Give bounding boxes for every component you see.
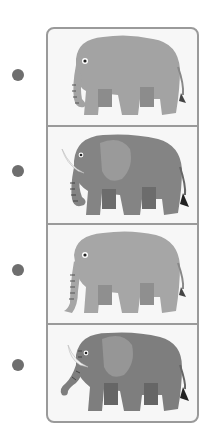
- elephant-image-2: [48, 127, 197, 223]
- panel-2[interactable]: [48, 127, 197, 223]
- elephant-icon: [62, 135, 189, 216]
- picture-frame: [46, 27, 199, 423]
- elephant-icon: [72, 35, 186, 115]
- elephant-icon: [64, 231, 186, 313]
- panel-3[interactable]: [48, 225, 197, 323]
- choice-dot-3[interactable]: [12, 264, 24, 276]
- panel-1[interactable]: [48, 29, 197, 125]
- elephant-image-1: [48, 29, 197, 125]
- elephant-icon: [61, 333, 189, 412]
- choice-dot-4[interactable]: [12, 359, 24, 371]
- elephant-image-3: [48, 225, 197, 323]
- choice-dot-2[interactable]: [12, 165, 24, 177]
- choice-dot-1[interactable]: [12, 69, 24, 81]
- panel-4[interactable]: [48, 325, 197, 421]
- elephant-image-4: [48, 325, 197, 421]
